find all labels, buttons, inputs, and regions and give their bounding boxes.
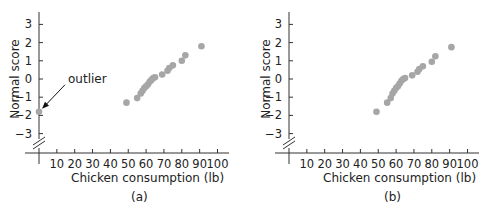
panel-caption: (a) [131,190,148,204]
data-point [182,52,189,59]
x-tick-label: 90 [192,157,207,171]
y-tick-label: 3 [25,17,32,31]
x-tick-label: 70 [157,157,172,171]
data-point [198,43,205,50]
x-tick-label: 30 [85,157,100,171]
y-tick-label: 2 [275,36,282,50]
y-tick-label: −3 [15,127,32,141]
x-tick-label: 60 [389,157,404,171]
axis-break-icon [33,141,45,149]
x-tick-label: 40 [103,157,118,171]
y-axis-title: Normal score [8,39,22,119]
y-tick-label: 0 [275,72,282,86]
axis-break-icon [283,141,295,149]
y-axis-title: Normal score [259,39,273,119]
x-tick-label: 80 [174,157,189,171]
x-axis-title: Chicken consumption (lb) [71,171,224,185]
data-point [159,71,166,78]
x-tick-label: 100 [207,157,229,171]
data-point [179,58,186,65]
data-point [429,58,436,65]
data-point [409,72,416,79]
x-tick-label: 50 [371,157,386,171]
y-tick-label: −3 [265,127,282,141]
y-tick-label: 2 [25,36,32,50]
x-tick-label: 70 [407,157,422,171]
data-point [170,62,177,69]
panel-b: 1020304050607080901003210−1−2−3 Normal s… [245,0,489,211]
x-axis-title: Chicken consumption (lb) [323,171,476,185]
annotation-arrow [44,85,65,107]
y-tick-label: 1 [275,54,282,68]
y-tick-label: 3 [275,17,282,31]
data-point [432,53,439,60]
panel-a: 1020304050607080901003210−1−2−3outlier N… [0,0,245,211]
x-tick-label: 80 [424,157,439,171]
panel-caption: (b) [384,190,401,204]
data-point [420,63,427,70]
x-tick-label: 60 [139,157,154,171]
outlier-label: outlier [68,72,107,86]
x-tick-label: 20 [317,157,332,171]
data-point [36,108,43,115]
x-tick-label: 50 [121,157,136,171]
data-point [373,108,380,115]
x-tick-label: 40 [353,157,368,171]
data-point [152,74,159,81]
x-tick-label: 10 [300,157,315,171]
data-point [402,75,409,82]
y-tick-label: 1 [25,54,32,68]
x-tick-label: 10 [50,157,65,171]
data-point [123,99,130,106]
x-tick-label: 30 [335,157,350,171]
x-tick-label: 20 [67,157,82,171]
x-tick-label: 100 [457,157,479,171]
data-point [448,44,455,51]
x-tick-label: 90 [442,157,457,171]
y-tick-label: 0 [25,72,32,86]
